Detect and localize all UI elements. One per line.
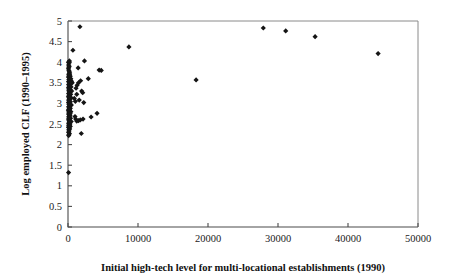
data-point — [86, 76, 91, 81]
y-tick-label: 4.5 — [49, 36, 62, 47]
y-tick-label: 2.5 — [49, 119, 62, 130]
data-point — [261, 25, 266, 30]
data-point — [194, 77, 199, 82]
y-tick-label: 1 — [57, 180, 62, 191]
data-points — [66, 24, 381, 175]
data-point — [77, 98, 82, 103]
plot-frame — [68, 21, 418, 227]
data-point — [89, 114, 94, 119]
x-tick-label: 0 — [65, 233, 70, 244]
y-tick-label: 3.5 — [49, 77, 62, 88]
data-point — [82, 58, 87, 63]
data-point — [79, 131, 84, 136]
x-tick-label: 30000 — [265, 233, 291, 244]
y-tick-label: 1.5 — [49, 160, 62, 171]
data-point — [81, 100, 86, 105]
data-point — [126, 44, 131, 49]
y-tick-label: 0.5 — [49, 201, 62, 212]
chart-figure: 01000020000300004000050000 00.511.522.53… — [0, 0, 449, 278]
x-axis-title: Initial high-tech level for multi-locati… — [101, 262, 385, 274]
data-point — [70, 48, 75, 53]
data-point — [94, 111, 99, 116]
y-axis-tick-labels: 00.511.522.533.544.55 — [49, 16, 63, 233]
y-axis-title: Log employed CLF (1990–1995) — [20, 52, 32, 196]
x-axis-ticks — [68, 223, 418, 227]
y-tick-label: 3 — [57, 98, 62, 109]
scatter-plot: 01000020000300004000050000 00.511.522.53… — [0, 0, 449, 278]
x-tick-label: 10000 — [125, 233, 151, 244]
data-point — [66, 170, 71, 175]
y-tick-label: 2 — [57, 139, 62, 150]
data-point — [376, 51, 381, 56]
data-point — [77, 24, 82, 29]
y-tick-label: 0 — [57, 222, 62, 233]
x-axis-tick-labels: 01000020000300004000050000 — [65, 233, 431, 244]
y-tick-label: 4 — [57, 57, 63, 68]
data-point — [74, 92, 79, 97]
data-point — [283, 28, 288, 33]
x-tick-label: 40000 — [335, 233, 361, 244]
data-point — [313, 34, 318, 39]
y-tick-label: 5 — [57, 16, 62, 27]
x-tick-label: 50000 — [405, 233, 431, 244]
data-point — [76, 65, 81, 70]
x-tick-label: 20000 — [195, 233, 221, 244]
